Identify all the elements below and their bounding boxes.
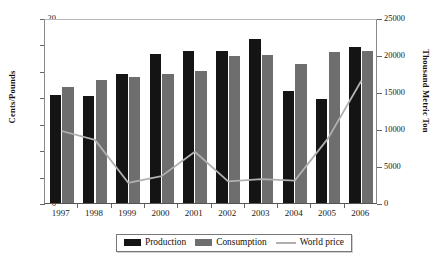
y-tick-label-right: 20000 [384,52,424,60]
legend-label: Consumption [216,237,267,248]
legend-item: Production [124,237,186,248]
legend-swatch-prod [124,239,141,246]
x-tick-label-2002: 2002 [210,208,244,218]
chart-figure: Cents/Pounds Thousand Metric Ton 6810121… [0,0,434,267]
x-tick-label-1997: 1997 [44,208,78,218]
x-tick-label-2006: 2006 [343,208,377,218]
x-tick-label-2000: 2000 [144,208,178,218]
chart-legend: ProductionConsumptionWorld price [116,234,352,252]
y-tick-label-right: 0 [384,200,424,208]
plot-area [44,19,377,204]
legend-label: Production [145,237,186,248]
legend-swatch-line [276,242,296,244]
legend-item: World price [276,237,344,248]
y-tick-label-right: 25000 [384,15,424,23]
legend-item: Consumption [195,237,267,248]
x-tick-label-1998: 1998 [77,208,111,218]
y-tick-label-right: 5000 [384,163,424,171]
y-tick-label-right: 10000 [384,126,424,134]
legend-swatch-cons [195,239,212,246]
x-tick-label-2005: 2005 [310,208,344,218]
x-tick-label-2004: 2004 [277,208,311,218]
legend-label: World price [300,237,344,248]
y-tick-label-right: 15000 [384,89,424,97]
world-price-line [45,20,378,205]
x-tick-label-1999: 1999 [110,208,144,218]
x-tick-label-2001: 2001 [177,208,211,218]
x-tick-label-2003: 2003 [243,208,277,218]
y-axis-title-left: Cents/Pounds [7,57,17,137]
